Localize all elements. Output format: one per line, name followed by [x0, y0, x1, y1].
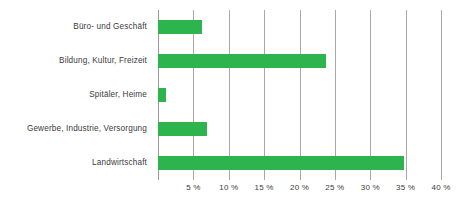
category-label-1: Bildung, Kultur, Freizeit — [0, 56, 147, 66]
category-label-0: Büro- und Geschäft — [0, 22, 147, 32]
category-label-2: Spitäler, Heime — [0, 90, 147, 100]
tick-label-3: 15 % — [255, 183, 274, 192]
bar-2 — [158, 88, 166, 102]
category-label-3: Gewerbe, Industrie, Versorgung — [0, 124, 147, 134]
gridline-10 — [229, 10, 230, 180]
tick-label-1: 5 % — [186, 183, 200, 192]
bar-chart: Büro- und Geschäft Bildung, Kultur, Frei… — [0, 0, 470, 207]
gridline-25 — [335, 10, 336, 180]
bar-4 — [158, 156, 404, 170]
gridline-40 — [441, 10, 442, 180]
value-axis: 5 % 10 % 15 % 20 % 25 % 30 % 35 % 40 % — [158, 183, 458, 199]
tick-label-7: 35 % — [396, 183, 415, 192]
tick-label-4: 20 % — [290, 183, 309, 192]
gridline-15 — [264, 10, 265, 180]
tick-label-6: 30 % — [361, 183, 380, 192]
bar-1 — [158, 54, 326, 68]
bar-3 — [158, 122, 207, 136]
category-label-4: Landwirtschaft — [0, 158, 147, 168]
tick-label-5: 25 % — [325, 183, 344, 192]
tick-label-2: 10 % — [219, 183, 238, 192]
gridline-5 — [193, 10, 194, 180]
bar-0 — [158, 20, 202, 34]
gridline-35 — [406, 10, 407, 180]
category-axis: Büro- und Geschäft Bildung, Kultur, Frei… — [0, 10, 155, 180]
tick-label-8: 40 % — [431, 183, 450, 192]
gridline-20 — [300, 10, 301, 180]
plot-area — [158, 10, 441, 180]
gridline-30 — [370, 10, 371, 180]
